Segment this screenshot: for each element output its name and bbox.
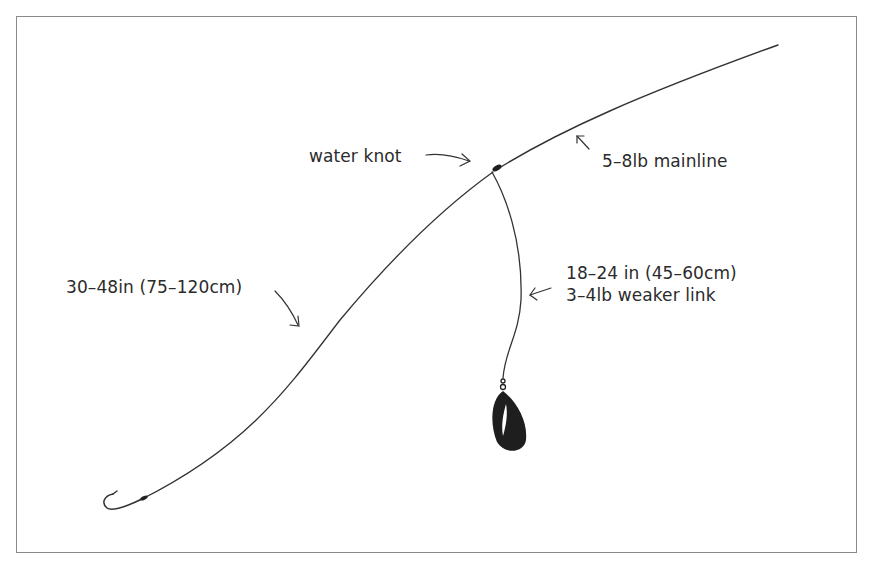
hooklength-arrow-icon [275,291,299,326]
water-knot-arrow-icon [426,154,470,166]
weak-link-length-label: 18–24 in (45–60cm) [566,262,737,284]
water-knot-label: water knot [309,145,402,167]
hook-icon [104,491,149,509]
weight-icon [492,379,526,451]
mainline-label: 5–8lb mainline [602,150,728,172]
weak-link-arrow-icon [530,288,551,300]
water-knot-icon [491,163,502,172]
mainline-arrow-icon [577,136,589,149]
hooklength-label: 30–48in (75–120cm) [66,276,242,298]
weak-link-label: 18–24 in (45–60cm) 3–4lb weaker link [566,262,737,306]
weak-link-line [492,172,521,378]
hooklength-line [140,172,493,500]
weak-link-strength-label: 3–4lb weaker link [566,284,737,306]
